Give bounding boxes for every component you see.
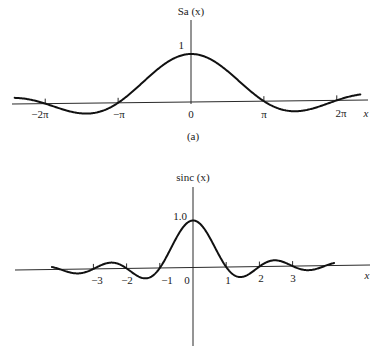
sa-y-tick-1: 1 bbox=[179, 39, 185, 51]
sinc-y-tick-1: 1.0 bbox=[173, 210, 187, 222]
sa-x-axis bbox=[12, 100, 368, 104]
sinc-x-tick-label: −3 bbox=[91, 274, 103, 286]
sinc-x-label: x bbox=[364, 269, 370, 281]
sa-y-label: Sa (x) bbox=[178, 5, 205, 18]
sa-x-tick-label: 0 bbox=[188, 108, 194, 120]
sinc-x-tick-label: 3 bbox=[290, 272, 296, 284]
sinc-chart: sinc (x) 1.0 −3 −2 −1 0 1 2 3 x bbox=[15, 171, 370, 346]
sa-x-tick-label: −2π bbox=[31, 108, 49, 120]
sinc-y-label: sinc (x) bbox=[176, 171, 210, 184]
sinc-x-tick-label: −1 bbox=[161, 274, 173, 286]
panel-caption: (a) bbox=[187, 130, 200, 143]
sa-chart: Sa (x) 1 −2π −π 0 π 2π x (a) bbox=[12, 5, 369, 143]
sa-x-tick-label: −π bbox=[113, 108, 125, 120]
sa-x-tick-label: π bbox=[261, 108, 267, 120]
sa-y-label-prefix: Sa (x) bbox=[178, 5, 205, 18]
sa-curve bbox=[15, 54, 361, 114]
sinc-x-tick-label: 0 bbox=[184, 274, 190, 286]
sinc-x-tick-label: 2 bbox=[258, 272, 264, 284]
figure: Sa (x) 1 −2π −π 0 π 2π x (a) sinc (x) 1.… bbox=[0, 0, 383, 359]
sa-x-label: x bbox=[363, 107, 369, 119]
sinc-x-tick-label: −2 bbox=[121, 274, 133, 286]
sa-x-tick-label: 2π bbox=[335, 107, 347, 119]
sinc-x-tick-label: 1 bbox=[225, 274, 231, 286]
